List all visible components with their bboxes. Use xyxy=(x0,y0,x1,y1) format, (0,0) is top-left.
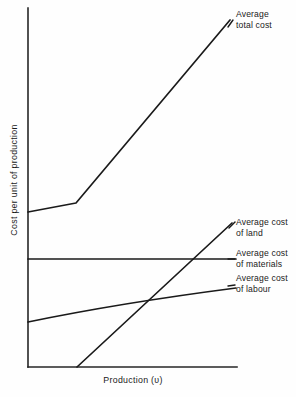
chart-plot-area xyxy=(0,0,296,397)
annotation-average-cost-of-land-line2: of land xyxy=(236,228,263,238)
annotation-average-total-cost: Averagetotal cost xyxy=(236,9,272,31)
annotation-average-total-cost-line2: total cost xyxy=(236,20,272,30)
annotation-average-cost-of-materials-line2: of materials xyxy=(236,259,282,269)
annotation-average-cost-of-labour-line2: of labour xyxy=(236,284,271,294)
series-average-total-cost xyxy=(28,20,230,212)
annotation-average-cost-of-labour: Average costof labour xyxy=(236,273,288,295)
annotation-average-cost-of-materials: Average costof materials xyxy=(236,248,288,270)
x-axis-label: Production (υ) xyxy=(0,375,266,385)
annotation-average-cost-of-labour-line1: Average cost xyxy=(236,273,288,283)
annotation-average-cost-of-land: Average costof land xyxy=(236,217,288,239)
annotation-average-cost-of-land-line1: Average cost xyxy=(236,217,288,227)
annotation-average-cost-of-materials-line1: Average cost xyxy=(236,248,288,258)
cost-curves-chart: Averagetotal cost Average costof land Av… xyxy=(0,0,296,397)
y-axis-label: Cost per unit of production xyxy=(9,105,19,255)
series-average-cost-of-land xyxy=(77,223,232,367)
annotation-average-total-cost-line1: Average xyxy=(236,9,269,19)
leader-average-cost-of-labour xyxy=(228,285,235,286)
